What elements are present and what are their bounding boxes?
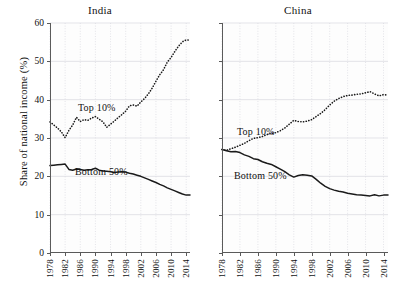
x-tick-mark [65,253,66,256]
x-tick-label: 1986 [253,259,263,278]
panel-india: India 0102030405060 19781982198619901994… [0,0,200,302]
series-line-top-10 [222,92,388,151]
x-tick-mark [384,253,385,256]
panel-title-india: India [0,4,200,16]
x-tick-mark [80,253,81,256]
x-tick-mark [312,253,313,256]
x-tick-label: 2014 [181,259,191,278]
series-line-top-10 [50,40,190,138]
x-tick-label: 2006 [343,259,353,278]
x-tick-label: 1986 [75,259,85,278]
x-tick-mark [240,253,241,256]
annotation-india-bottom50: Bottom 50% [75,166,128,177]
annotation-india-top10: Top 10% [78,102,116,113]
x-tick-mark [276,253,277,256]
series-lines-china [222,23,388,253]
x-tick-label: 1990 [271,259,281,278]
plot-area-india: 0102030405060 19781982198619901994199820… [50,23,190,253]
x-axis-line-india [50,252,190,253]
chart-figure: Share of national income (%) India 01020… [0,0,398,302]
x-tick-mark [348,253,349,256]
y-tick-mark [219,176,222,177]
y-axis-line-china [222,23,223,253]
series-lines-india [50,23,190,253]
panel-title-china: China [198,4,398,16]
y-tick-mark [219,23,222,24]
y-tick-mark [47,138,50,139]
x-tick-label: 2002 [325,259,335,278]
y-tick-label: 10 [35,210,45,220]
annotation-china-top10: Top 10% [237,126,275,137]
y-tick-mark [47,61,50,62]
x-tick-label: 2014 [379,259,389,278]
x-tick-mark [366,253,367,256]
x-tick-label: 2006 [151,259,161,278]
y-tick-mark [219,100,222,101]
x-tick-label: 1994 [289,259,299,278]
plot-area-china: 1978198219861990199419982002200620102014… [222,23,388,253]
y-tick-label: 50 [35,56,45,66]
x-tick-mark [111,253,112,256]
y-tick-label: 30 [35,133,45,143]
y-tick-mark [47,176,50,177]
x-tick-mark [258,253,259,256]
y-tick-mark [47,215,50,216]
x-tick-label: 1990 [90,259,100,278]
x-tick-mark [95,253,96,256]
y-tick-label: 40 [35,95,45,105]
x-tick-label: 1982 [60,259,70,278]
x-tick-label: 2002 [136,259,146,278]
y-tick-mark [219,61,222,62]
x-tick-mark [156,253,157,256]
x-tick-mark [50,253,51,256]
y-tick-mark [219,138,222,139]
x-tick-label: 2010 [166,259,176,278]
x-axis-line-china [222,252,388,253]
annotation-china-bottom50: Bottom 50% [234,170,287,181]
x-tick-mark [330,253,331,256]
x-tick-label: 1994 [106,259,116,278]
x-tick-label: 1978 [45,259,55,278]
x-tick-label: 1998 [307,259,317,278]
x-tick-label: 1978 [217,259,227,278]
panel-china: China 1978198219861990199419982002200620… [198,0,398,302]
x-tick-mark [222,253,223,256]
y-tick-label: 0 [39,248,44,258]
x-tick-label: 2010 [361,259,371,278]
x-tick-label: 1982 [235,259,245,278]
x-tick-mark [171,253,172,256]
y-axis-line-india [50,23,51,253]
x-tick-mark [141,253,142,256]
x-tick-label: 1998 [121,259,131,278]
x-tick-mark [186,253,187,256]
x-tick-mark [294,253,295,256]
y-tick-label: 20 [35,171,45,181]
y-tick-mark [47,100,50,101]
x-tick-mark [126,253,127,256]
y-tick-mark [219,215,222,216]
y-tick-label: 60 [35,18,45,28]
y-tick-mark [47,23,50,24]
